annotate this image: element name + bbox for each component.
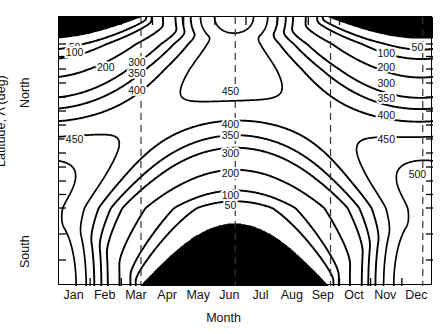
insolation-contour-figure: Latitude, Λ (deg) North South Month 5050…: [0, 0, 447, 334]
contour-label: 100100: [377, 47, 395, 59]
contour-label: 350350: [222, 129, 240, 141]
y-axis-title: Latitude, Λ (deg): [0, 75, 8, 167]
contour-label: 450450: [377, 133, 395, 145]
svg-text:450: 450: [222, 85, 240, 97]
x-axis-title: Month: [0, 311, 447, 325]
contour-label: 200200: [97, 61, 115, 73]
svg-text:300: 300: [377, 77, 395, 89]
svg-text:50: 50: [412, 41, 424, 53]
x-tick-label: Feb: [94, 289, 116, 302]
contour-label: 450450: [222, 85, 240, 97]
x-tick-label: Mar: [125, 289, 147, 302]
contour-label: 500500: [409, 168, 427, 180]
contour-label: 400400: [128, 84, 146, 96]
contour-line-500: [214, 17, 253, 33]
svg-text:400: 400: [222, 118, 240, 130]
x-tick-label: Oct: [344, 289, 363, 302]
svg-text:350: 350: [128, 67, 146, 79]
y-axis-north-label: North: [18, 77, 32, 108]
contour-label: 450450: [66, 133, 84, 145]
contour-label: 100100: [66, 46, 84, 58]
svg-text:400: 400: [128, 84, 146, 96]
plot-area: 5050100100200200300300350350400400450450…: [58, 16, 432, 285]
svg-text:500: 500: [409, 168, 427, 180]
y-axis-south-label: South: [18, 235, 32, 268]
svg-text:100: 100: [66, 46, 84, 58]
x-tick-label: Apr: [157, 289, 176, 302]
x-tick-label: Jul: [253, 289, 269, 302]
svg-text:200: 200: [377, 61, 395, 73]
svg-text:300: 300: [222, 147, 240, 159]
contour-label: 350350: [128, 67, 146, 79]
x-tick-label: Sep: [312, 289, 334, 302]
svg-text:350: 350: [222, 129, 240, 141]
contour-label: 400400: [377, 109, 395, 121]
svg-text:200: 200: [97, 61, 115, 73]
contour-label: 300300: [222, 147, 240, 159]
svg-text:100: 100: [377, 47, 395, 59]
contour-label: 200200: [222, 167, 240, 179]
x-tick-label: May: [186, 289, 210, 302]
x-tick-label: Aug: [281, 289, 303, 302]
contour-label: 200200: [377, 61, 395, 73]
x-tick-label: Dec: [405, 289, 427, 302]
svg-text:350: 350: [377, 92, 395, 104]
svg-text:400: 400: [377, 109, 395, 121]
contour-label: 5050: [412, 41, 424, 53]
contour-plot-svg: 5050100100200200300300350350400400450450…: [59, 17, 433, 286]
x-tick-label: Jan: [64, 289, 84, 302]
contour-label: 300300: [377, 77, 395, 89]
contour-label: 400400: [222, 118, 240, 130]
svg-text:450: 450: [66, 133, 84, 145]
contour-label: 300300: [128, 56, 146, 68]
svg-text:450: 450: [377, 133, 395, 145]
contour-label: 350350: [377, 92, 395, 104]
svg-text:300: 300: [128, 56, 146, 68]
svg-text:200: 200: [222, 167, 240, 179]
x-tick-label: Jun: [219, 289, 239, 302]
svg-text:50: 50: [225, 199, 237, 211]
contour-label: 5050: [225, 199, 237, 211]
x-tick-label: Nov: [374, 289, 396, 302]
contour-line-500: [59, 161, 76, 286]
